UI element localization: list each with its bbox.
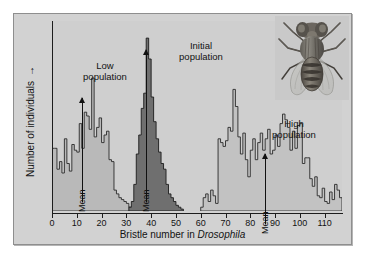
y-axis-label: Number of individuals→: [25, 66, 36, 176]
annotation-low-line1: Low: [96, 60, 113, 71]
mean-arrow-shaft-initial: [146, 50, 147, 202]
annotation-high-population: High population: [258, 118, 330, 140]
annotation-initial-line1: Initial: [190, 40, 212, 51]
x-tick-label-50: 50: [165, 218, 187, 229]
x-tick-label-20: 20: [91, 218, 113, 229]
histogram-low-population: [52, 78, 134, 211]
x-tick-label-10: 10: [66, 218, 88, 229]
fly-icon: [275, 16, 349, 100]
annotation-initial-population: Initial population: [162, 40, 240, 62]
mean-arrow-head-initial: [143, 49, 149, 55]
annotation-low-line2: population: [83, 71, 127, 82]
annotation-initial-line2: population: [179, 51, 223, 62]
x-tick-label-40: 40: [140, 218, 162, 229]
mean-label-high: Mean: [260, 211, 270, 234]
histogram-high-population: [201, 89, 342, 211]
y-axis-line: [52, 21, 53, 214]
y-axis-label-text: Number of individuals: [25, 80, 36, 176]
x-axis-label-prefix: Bristle number in: [120, 229, 198, 240]
x-tick-label-0: 0: [41, 218, 63, 229]
x-tick-label-60: 60: [190, 218, 212, 229]
y-axis-label-wrap: Number of individuals→: [10, 34, 50, 209]
mean-label-low: Mean: [77, 189, 87, 212]
chart-panel: 0102030405060708090100110 Bristle number…: [13, 13, 352, 245]
mean-arrow-head-high: [262, 153, 268, 159]
x-axis-label: Bristle number in Drosophila: [14, 229, 351, 240]
drosophila-fly-illustration: [275, 16, 349, 100]
x-tick-label-70: 70: [215, 218, 237, 229]
x-tick-label-80: 80: [239, 218, 261, 229]
annotation-high-line2: population: [272, 129, 316, 140]
x-tick-label-110: 110: [314, 218, 336, 229]
figure-root: 0102030405060708090100110 Bristle number…: [0, 0, 367, 271]
mean-arrow-head-low: [79, 97, 85, 103]
x-axis-label-species: Drosophila: [198, 229, 246, 240]
annotation-high-line1: High: [284, 118, 304, 129]
annotation-low-population: Low population: [71, 60, 139, 82]
mean-arrow-shaft-low: [82, 98, 83, 202]
x-tick-label-30: 30: [115, 218, 137, 229]
mean-label-initial: Mean: [141, 189, 151, 212]
x-tick-label-100: 100: [289, 218, 311, 229]
y-axis-arrow-icon: →: [25, 66, 36, 75]
